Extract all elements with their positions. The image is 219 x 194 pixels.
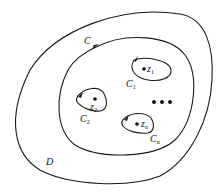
point-zn bbox=[135, 122, 139, 126]
diagram-svg bbox=[0, 0, 219, 194]
point-z1 bbox=[142, 67, 146, 71]
label-zn: zn bbox=[141, 119, 148, 130]
label-c: C bbox=[84, 36, 91, 46]
label-z1: z1 bbox=[147, 64, 154, 75]
label-c2: C2 bbox=[80, 114, 90, 125]
ellipsis-dot bbox=[168, 100, 172, 104]
label-d: D bbox=[46, 157, 53, 167]
ellipsis-dot bbox=[160, 100, 164, 104]
label-c1: C1 bbox=[126, 79, 136, 90]
label-cn: Cn bbox=[150, 134, 160, 145]
label-z2: z2 bbox=[90, 102, 97, 113]
multiply-connected-domain-diagram: C D z1 C1 z2 C2 zn Cn bbox=[0, 0, 219, 194]
ellipsis-dot bbox=[152, 100, 156, 104]
